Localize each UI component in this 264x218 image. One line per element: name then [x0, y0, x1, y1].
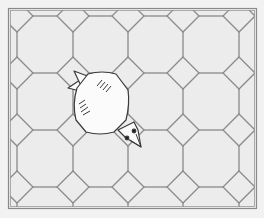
- eye-icon: [125, 136, 129, 140]
- board-background: [8, 8, 257, 209]
- game-board[interactable]: [0, 0, 264, 218]
- eye-icon: [132, 129, 136, 133]
